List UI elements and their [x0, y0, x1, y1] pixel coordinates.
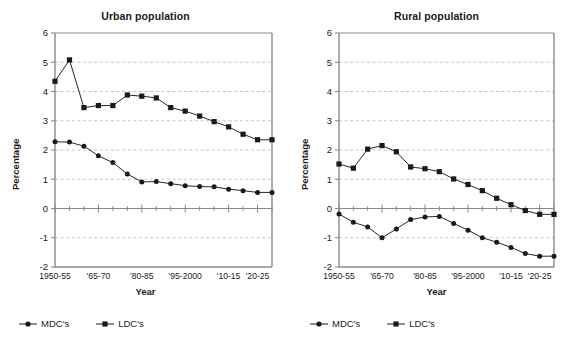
- data-point: [422, 166, 427, 171]
- data-point: [466, 228, 471, 233]
- x-tick-label: '20-25: [246, 271, 270, 281]
- data-point: [423, 214, 428, 219]
- data-point: [552, 254, 557, 259]
- x-tick-label: '65-70: [370, 271, 394, 281]
- x-tick-label: '95-2000: [451, 271, 484, 281]
- y-tick-label: -1: [40, 232, 48, 243]
- data-point: [351, 166, 356, 171]
- y-tick-label: 6: [43, 27, 48, 38]
- data-point: [67, 57, 72, 62]
- data-point: [351, 220, 356, 225]
- data-point: [380, 235, 385, 240]
- data-point: [197, 113, 202, 118]
- data-point: [255, 137, 260, 142]
- data-point: [183, 183, 188, 188]
- legend-item-mdcs-urban[interactable]: MDC's: [18, 318, 69, 329]
- data-point: [365, 147, 370, 152]
- data-point: [226, 187, 231, 192]
- legend-label-ldcs: LDC's: [118, 318, 144, 329]
- chart-svg-urban: -2-101234561950-55'65-70'80-85'95-2000'1…: [0, 0, 291, 300]
- data-point: [125, 92, 130, 97]
- x-tick-label: 1950-55: [323, 271, 355, 281]
- legend-label-mdcs: MDC's: [41, 318, 69, 329]
- y-tick-label: 3: [43, 115, 48, 126]
- legend-rural: MDC's LDC's: [291, 318, 582, 329]
- data-point: [270, 190, 275, 195]
- data-point: [537, 212, 542, 217]
- x-tick-label: '95-2000: [169, 271, 202, 281]
- x-tick-label: '10-15: [217, 271, 241, 281]
- x-tick-label: '80-85: [413, 271, 437, 281]
- data-point: [480, 188, 485, 193]
- data-point: [480, 235, 485, 240]
- x-axis-label-urban: Year: [0, 286, 291, 297]
- data-point: [96, 103, 101, 108]
- data-point: [212, 119, 217, 124]
- data-point: [110, 160, 115, 165]
- y-tick-label: 4: [327, 86, 332, 97]
- x-tick-label: '65-70: [87, 271, 111, 281]
- plot-area-urban: -2-101234561950-55'65-70'80-85'95-2000'1…: [0, 0, 291, 300]
- data-point: [52, 79, 57, 84]
- data-point: [183, 109, 188, 114]
- y-tick-label: 3: [327, 115, 332, 126]
- data-point: [465, 182, 470, 187]
- data-point: [125, 171, 130, 176]
- data-point: [437, 169, 442, 174]
- y-tick-label: -1: [324, 232, 332, 243]
- legend-marker-square-icon: [95, 319, 115, 329]
- series-line: [55, 142, 272, 193]
- data-point: [508, 202, 513, 207]
- series-mdcs: [53, 139, 275, 195]
- data-point: [379, 143, 384, 148]
- y-axis-label-urban: Percentage: [10, 139, 21, 190]
- data-point: [494, 196, 499, 201]
- data-point: [269, 137, 274, 142]
- data-point: [226, 124, 231, 129]
- data-point: [537, 254, 542, 259]
- legend-marker-square-icon: [386, 319, 406, 329]
- data-point: [110, 103, 115, 108]
- y-axis-label-rural: Percentage: [299, 139, 310, 190]
- y-tick-label: 0: [43, 203, 48, 214]
- x-tick-label: '80-85: [130, 271, 154, 281]
- data-point: [168, 105, 173, 110]
- data-point: [451, 221, 456, 226]
- data-point: [437, 214, 442, 219]
- data-point: [53, 139, 58, 144]
- legend-marker-circle-icon: [309, 319, 329, 329]
- series-line: [339, 214, 554, 256]
- y-tick-label: 4: [43, 86, 48, 97]
- y-tick-label: 2: [43, 144, 48, 155]
- data-point: [139, 179, 144, 184]
- legend-urban: MDC's LDC's: [0, 318, 291, 329]
- data-point: [212, 184, 217, 189]
- data-point: [365, 224, 370, 229]
- data-point: [154, 95, 159, 100]
- legend-item-ldcs-rural[interactable]: LDC's: [386, 318, 435, 329]
- data-point: [154, 179, 159, 184]
- data-point: [168, 181, 173, 186]
- data-point: [96, 153, 101, 158]
- data-point: [197, 184, 202, 189]
- legend-item-ldcs-urban[interactable]: LDC's: [95, 318, 144, 329]
- y-tick-label: 6: [327, 27, 332, 38]
- data-point: [551, 212, 556, 217]
- series-ldcs: [336, 143, 556, 217]
- panel-rural: Rural population -2-101234561950-55'65-7…: [291, 0, 582, 337]
- data-point: [336, 161, 341, 166]
- data-point: [509, 245, 514, 250]
- y-tick-label: 0: [327, 203, 332, 214]
- data-point: [494, 240, 499, 245]
- y-tick-label: 1: [327, 174, 332, 185]
- legend-item-mdcs-rural[interactable]: MDC's: [309, 318, 360, 329]
- chart-svg-rural: -2-101234561950-55'65-70'80-85'95-2000'1…: [291, 0, 582, 300]
- y-tick-label: 1: [43, 174, 48, 185]
- x-axis-label-rural: Year: [291, 286, 582, 297]
- series-line: [55, 60, 272, 140]
- data-point: [523, 208, 528, 213]
- figure-container: Urban population -2-101234561950-55'65-7…: [0, 0, 582, 337]
- plot-area-rural: -2-101234561950-55'65-70'80-85'95-2000'1…: [291, 0, 582, 300]
- data-point: [240, 132, 245, 137]
- x-tick-label: '10-15: [499, 271, 523, 281]
